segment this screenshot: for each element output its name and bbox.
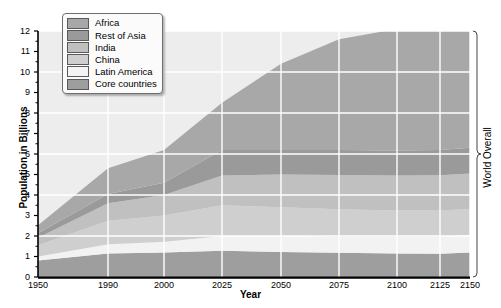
x-tick-label: 2000 (142, 280, 186, 290)
y-tick-label: 2 (8, 231, 30, 241)
legend-label: Rest of Asia (95, 31, 146, 41)
y-tick-label: 11 (8, 46, 30, 56)
y-tick-label: 6 (8, 149, 30, 159)
y-tick-label: 1 (8, 251, 30, 261)
y-tick-label: 10 (8, 67, 30, 77)
legend-label: India (95, 43, 116, 53)
legend-swatch-icon (67, 79, 89, 90)
x-tick-label: 1950 (16, 280, 60, 290)
x-tick-label: 2100 (375, 280, 419, 290)
world-overall-bracket (473, 31, 481, 277)
area-core-countries (38, 251, 470, 277)
y-tick-label: 4 (8, 190, 30, 200)
legend-swatch-icon (67, 42, 89, 53)
legend-label: Core countries (95, 79, 157, 89)
y-tick-label: 12 (8, 26, 30, 36)
legend-label: Africa (95, 18, 119, 28)
y-tick-label: 3 (8, 210, 30, 220)
x-tick-label: 1990 (86, 280, 130, 290)
y-tick-label: 5 (8, 169, 30, 179)
chart-canvas: Population in Billions World Overall Yea… (0, 0, 501, 308)
legend-swatch-icon (67, 18, 89, 29)
y-tick-label: 8 (8, 108, 30, 118)
x-tick-label: 2025 (200, 280, 244, 290)
legend-item-rest-of-asia[interactable]: Rest of Asia (67, 29, 157, 41)
x-tick-label: 2050 (259, 280, 303, 290)
legend-swatch-icon (67, 30, 89, 41)
legend-item-latin-america[interactable]: Latin America (67, 66, 157, 78)
legend-item-africa[interactable]: Africa (67, 17, 157, 29)
y-tick-label: 7 (8, 128, 30, 138)
legend-item-india[interactable]: India (67, 41, 157, 53)
legend-item-china[interactable]: China (67, 54, 157, 66)
x-tick-label: 2150 (448, 280, 492, 290)
x-tick-label: 2075 (317, 280, 361, 290)
legend-swatch-icon (67, 66, 89, 77)
legend-item-core-countries[interactable]: Core countries (67, 78, 157, 90)
legend-label: Latin America (95, 67, 153, 77)
legend-swatch-icon (67, 54, 89, 65)
y-tick-label: 9 (8, 87, 30, 97)
chart-legend[interactable]: AfricaRest of AsiaIndiaChinaLatin Americ… (62, 13, 163, 94)
legend-label: China (95, 55, 120, 65)
